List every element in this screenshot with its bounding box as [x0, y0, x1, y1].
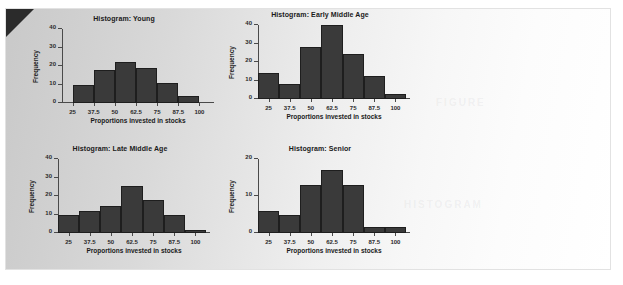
x-axis-tick	[332, 233, 333, 236]
chart-title-young: Histogram: Young	[24, 15, 224, 22]
y-axis-tick-label: 20	[45, 191, 52, 197]
chart-title-early-middle-age: Histogram: Early Middle Age	[220, 11, 420, 18]
y-axis-tick-label: 10	[245, 76, 252, 82]
y-axis-tick-label: 30	[45, 173, 52, 179]
y-axis-tick: 30	[58, 47, 62, 48]
x-axis-tick-label: 100	[390, 105, 400, 111]
y-axis-tick: 30	[54, 177, 58, 178]
histogram-bar	[121, 186, 142, 233]
x-axis-tick-label: 87.5	[168, 239, 180, 245]
x-axis-tick	[353, 99, 354, 102]
y-axis-tick-label: 0	[49, 228, 52, 234]
x-axis-tick-label: 75	[154, 109, 161, 115]
x-axis-tick	[174, 233, 175, 236]
y-axis-tick-label: 40	[245, 20, 252, 26]
histogram-bar	[79, 211, 100, 233]
histogram-bar	[258, 211, 279, 233]
x-axis-tick	[269, 233, 270, 236]
x-axis-label-young: Proportions invested in stocks	[62, 117, 214, 124]
histogram-bar	[321, 25, 342, 99]
x-axis-tick	[111, 233, 112, 236]
x-axis-tick-label: 87.5	[368, 239, 380, 245]
y-axis-tick-label: 10	[245, 191, 252, 197]
x-axis-tick	[395, 233, 396, 236]
plot-area-early-middle-age: 0102030402537.55062.57587.5100	[258, 25, 406, 99]
x-axis-tick	[395, 99, 396, 102]
histogram-bar	[385, 94, 406, 99]
y-axis-tick: 0	[58, 102, 62, 103]
x-axis-tick	[269, 99, 270, 102]
x-axis-tick	[136, 103, 137, 106]
x-axis-tick-label: 87.5	[368, 105, 380, 111]
y-axis-tick: 20	[54, 195, 58, 196]
x-axis-tick	[290, 99, 291, 102]
histogram-bar	[343, 185, 364, 233]
y-axis-tick-label: 20	[245, 57, 252, 63]
histogram-bar	[300, 185, 321, 233]
chart-late-middle-age: Histogram: Late Middle Age Frequency 010…	[20, 145, 220, 270]
x-axis-tick-label: 37.5	[88, 109, 100, 115]
x-axis-tick-label: 100	[190, 239, 200, 245]
plot-area-senior: 010202537.55062.57587.5100	[258, 159, 406, 233]
x-axis-tick-label: 25	[265, 239, 272, 245]
x-axis-tick-label: 87.5	[172, 109, 184, 115]
y-axis-tick-label: 20	[49, 61, 56, 67]
chart-title-senior: Histogram: Senior	[220, 145, 420, 152]
y-axis-tick-label: 30	[245, 39, 252, 45]
x-axis-tick-label: 62.5	[126, 239, 138, 245]
histogram-bar	[136, 68, 157, 103]
x-axis-tick	[90, 233, 91, 236]
charts-grid: Histogram: Young Frequency 0102030402537…	[6, 9, 611, 270]
y-axis-tick-label: 40	[49, 24, 56, 30]
x-axis-tick-label: 37.5	[84, 239, 96, 245]
y-axis-line	[62, 29, 63, 103]
x-axis-tick-label: 50	[112, 109, 119, 115]
y-axis-tick: 20	[254, 158, 258, 159]
y-axis-tick: 20	[254, 61, 258, 62]
chart-young: Histogram: Young Frequency 0102030402537…	[24, 15, 224, 143]
histogram-bar	[164, 215, 185, 234]
x-axis-tick-label: 25	[65, 239, 72, 245]
x-axis-tick	[69, 233, 70, 236]
x-axis-tick	[153, 233, 154, 236]
histogram-bar	[279, 84, 300, 99]
histogram-bar	[178, 96, 199, 103]
x-axis-tick-label: 25	[69, 109, 76, 115]
x-axis-tick-label: 25	[265, 105, 272, 111]
x-axis-tick-label: 62.5	[130, 109, 142, 115]
x-axis-tick-label: 75	[350, 105, 357, 111]
y-axis-label-senior: Frequency	[226, 159, 236, 233]
x-axis-tick-label: 100	[194, 109, 204, 115]
y-axis-tick-label: 10	[49, 80, 56, 86]
x-axis-tick-label: 100	[390, 239, 400, 245]
x-axis-tick	[311, 233, 312, 236]
y-axis-tick: 40	[54, 158, 58, 159]
x-axis-tick	[290, 233, 291, 236]
y-axis-label-young: Frequency	[30, 29, 40, 103]
y-axis-tick-label: 30	[49, 43, 56, 49]
histogram-bar	[157, 83, 178, 103]
histogram-bar	[364, 76, 385, 99]
histogram-bar	[279, 215, 300, 234]
x-axis-tick	[178, 103, 179, 106]
x-axis-tick	[115, 103, 116, 106]
chart-title-late-middle-age: Histogram: Late Middle Age	[20, 145, 220, 152]
x-axis-tick	[73, 103, 74, 106]
x-axis-label-late-middle-age: Proportions invested in stocks	[58, 247, 210, 254]
y-axis-tick-label: 0	[249, 228, 252, 234]
y-axis-tick: 20	[58, 65, 62, 66]
y-axis-tick-label: 20	[245, 154, 252, 160]
slide-panel: FIGURE HISTOGRAM Histogram: Young Freque…	[5, 8, 611, 270]
histogram-bar	[58, 215, 79, 234]
x-axis-tick	[132, 233, 133, 236]
chart-early-middle-age: Histogram: Early Middle Age Frequency 01…	[220, 11, 420, 139]
x-axis-label-senior: Proportions invested in stocks	[258, 247, 410, 254]
x-axis-tick-label: 37.5	[284, 105, 296, 111]
y-axis-tick: 40	[254, 24, 258, 25]
x-axis-tick-label: 75	[350, 239, 357, 245]
histogram-bar	[143, 200, 164, 233]
y-axis-tick-label: 0	[53, 98, 56, 104]
chart-senior: Histogram: Senior Frequency 010202537.55…	[220, 145, 420, 270]
x-axis-tick-label: 37.5	[284, 239, 296, 245]
y-axis-label-late-middle-age: Frequency	[26, 159, 36, 233]
